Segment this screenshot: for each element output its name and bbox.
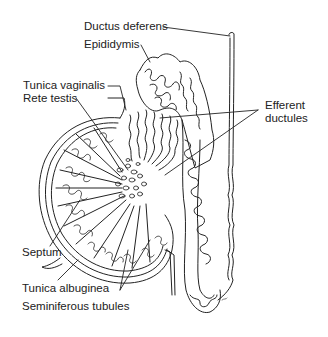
- label-efferent-ductules-line2: ductules: [265, 112, 308, 125]
- testis-capsule-shape: [39, 98, 175, 295]
- ductus-deferens-shape: [218, 32, 234, 300]
- label-seminiferous-tubules: Seminiferous tubules: [22, 300, 129, 313]
- label-tunica-vaginalis: Tunica vaginalis: [23, 79, 105, 92]
- efferent-ductules-shape: [129, 110, 178, 170]
- epididymis-shape: [136, 54, 220, 313]
- label-tunica-albuginea: Tunica albuginea: [22, 282, 109, 295]
- label-septum: Septum: [22, 246, 62, 259]
- label-efferent-ductules-line1: Efferent: [265, 99, 305, 112]
- label-rete-testis: Rete testis: [23, 92, 77, 105]
- label-epididymis: Epididymis: [84, 38, 140, 51]
- label-ductus-deferens: Ductus deferens: [84, 20, 168, 33]
